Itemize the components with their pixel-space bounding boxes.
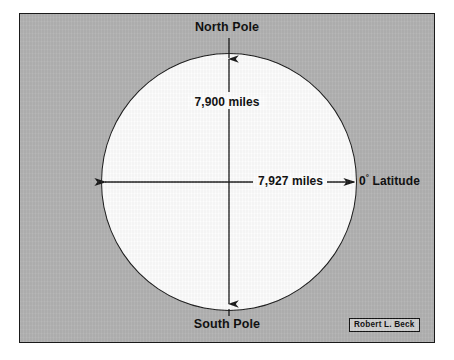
degree-symbol-icon: ° — [366, 173, 369, 182]
latitude-label: 0° Latitude — [359, 174, 420, 188]
credit-box: Robert L. Beck — [349, 318, 420, 332]
equatorial-diameter-label: 7,927 miles — [254, 174, 327, 188]
latitude-degree-value: 0 — [359, 174, 366, 188]
polar-diameter-value: 7,900 miles — [188, 95, 265, 109]
polar-diameter-label: 7,900 miles — [20, 95, 434, 109]
latitude-text: Latitude — [373, 174, 420, 188]
equatorial-diameter-value: 7,927 miles — [254, 174, 327, 188]
north-pole-label: North Pole — [20, 20, 434, 34]
diagram-canvas: North Pole 7,900 miles 7,927 miles 0° La… — [0, 0, 454, 360]
diagram-panel: North Pole 7,900 miles 7,927 miles 0° La… — [19, 13, 435, 343]
